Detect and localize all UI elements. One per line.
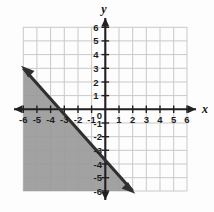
x-tick-label: 3 xyxy=(144,114,149,125)
y-tick-label: 4 xyxy=(93,49,99,60)
x-tick-label: -2 xyxy=(74,114,82,125)
y-tick-label: 3 xyxy=(93,63,98,74)
y-axis-label: y xyxy=(99,2,107,16)
x-tick-label: 6 xyxy=(184,114,189,125)
y-tick-label: 1 xyxy=(93,90,99,101)
x-tick-label: -4 xyxy=(46,114,55,125)
y-tick-label: 6 xyxy=(93,22,98,33)
y-tick-label: -4 xyxy=(94,159,103,170)
y-tick-label: -5 xyxy=(94,172,103,183)
origin-label: 0 xyxy=(97,110,102,121)
x-tick-label: -6 xyxy=(19,114,27,125)
x-tick-label: 1 xyxy=(116,114,122,125)
linear-inequality-graph: -6 -5 -4 -3 -2 -1 1 2 3 4 5 6 6 5 4 3 2 … xyxy=(0,0,214,212)
x-tick-label: 2 xyxy=(130,114,135,125)
x-tick-label: 4 xyxy=(157,114,163,125)
x-tick-label: -3 xyxy=(60,114,68,125)
y-tick-label: -6 xyxy=(94,186,102,197)
x-tick-label: -5 xyxy=(33,114,42,125)
y-tick-label: -3 xyxy=(94,145,102,156)
x-tick-label: 5 xyxy=(171,114,177,125)
y-tick-label: 5 xyxy=(93,35,99,46)
coordinate-plane: -6 -5 -4 -3 -2 -1 1 2 3 4 5 6 6 5 4 3 2 … xyxy=(0,0,214,212)
y-tick-label: 2 xyxy=(93,77,98,88)
y-tick-label: -2 xyxy=(94,131,102,142)
x-axis-label: x xyxy=(201,102,208,116)
